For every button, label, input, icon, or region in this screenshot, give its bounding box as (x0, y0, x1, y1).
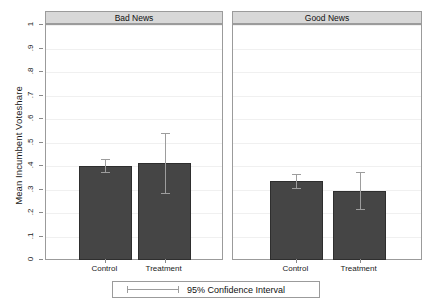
y-axis-tick-mark (39, 236, 43, 237)
panel-plot-area (232, 24, 422, 260)
bar (79, 166, 132, 260)
y-axis-tick-label: .3 (25, 182, 37, 196)
chart-figure: Mean Incumbent Voteshare 0.1.2.3.4.5.6.7… (0, 0, 431, 305)
gridline (46, 237, 222, 238)
error-bar-line (105, 159, 106, 172)
gridline (233, 143, 421, 144)
x-axis-tick-label: Treatment (124, 264, 204, 273)
gridline (233, 25, 421, 26)
y-axis-tick-label: 0 (25, 252, 37, 266)
y-axis-tick-label: 1 (25, 17, 37, 31)
panel-good-news: Good News (232, 11, 422, 260)
gridline (233, 119, 421, 120)
y-axis-tick-label: .9 (25, 41, 37, 55)
y-axis-tick-label: .7 (25, 88, 37, 102)
y-axis-title: Mean Incumbent Voteshare (13, 46, 24, 246)
gridline (233, 72, 421, 73)
panel-plot-area (45, 24, 223, 260)
gridline (46, 25, 222, 26)
y-axis-tick-label: .8 (25, 64, 37, 78)
panel-bad-news: Bad News (45, 11, 223, 260)
error-bar-line (360, 172, 361, 210)
error-bar-cap-lower (101, 172, 110, 173)
gridline (46, 96, 222, 97)
gridline (233, 237, 421, 238)
y-axis-tick-mark (39, 95, 43, 96)
y-axis-tick-mark (39, 142, 43, 143)
error-bar-cap-upper (356, 172, 365, 173)
y-axis-tick-label: .6 (25, 111, 37, 125)
error-bar-cap-upper (101, 159, 110, 160)
bar (270, 181, 323, 260)
y-axis-tick-label: .5 (25, 135, 37, 149)
y-axis-tick-mark (39, 259, 43, 260)
error-bar-line (296, 174, 297, 188)
gridline (46, 119, 222, 120)
x-axis-tick-mark (165, 259, 166, 263)
y-axis-tick-label: .1 (25, 229, 37, 243)
error-bar-cap-lower (161, 193, 170, 194)
gridline (233, 166, 421, 167)
gridline (46, 190, 222, 191)
error-bar-cap-lower (356, 209, 365, 210)
error-bar-cap-upper (161, 133, 170, 134)
x-axis-tick-mark (360, 259, 361, 263)
error-bar-cap-lower (292, 188, 301, 189)
gridline (46, 49, 222, 50)
gridline (233, 190, 421, 191)
x-axis-tick-mark (105, 259, 106, 263)
y-axis-tick-mark (39, 212, 43, 213)
y-axis-tick-mark (39, 118, 43, 119)
chart-legend: 95% Confidence Interval (112, 281, 320, 298)
x-axis-tick-label: Treatment (319, 264, 399, 273)
panel-header-label: Bad News (45, 11, 223, 24)
gridline (46, 166, 222, 167)
gridline (46, 143, 222, 144)
y-axis-tick-mark (39, 24, 43, 25)
y-axis-tick-mark (39, 71, 43, 72)
panel-header-label: Good News (232, 11, 422, 24)
gridline (46, 72, 222, 73)
confidence-interval-key-icon (127, 285, 179, 294)
gridline (233, 213, 421, 214)
y-axis-tick-mark (39, 165, 43, 166)
error-bar-line (165, 133, 166, 193)
legend-label: 95% Confidence Interval (187, 285, 285, 295)
error-bar-cap-upper (292, 174, 301, 175)
y-axis-tick-mark (39, 48, 43, 49)
gridline (46, 213, 222, 214)
y-axis-tick-label: .4 (25, 158, 37, 172)
y-axis-tick-label: .2 (25, 205, 37, 219)
y-axis-tick-mark (39, 189, 43, 190)
x-axis-tick-mark (296, 259, 297, 263)
gridline (233, 49, 421, 50)
gridline (233, 96, 421, 97)
